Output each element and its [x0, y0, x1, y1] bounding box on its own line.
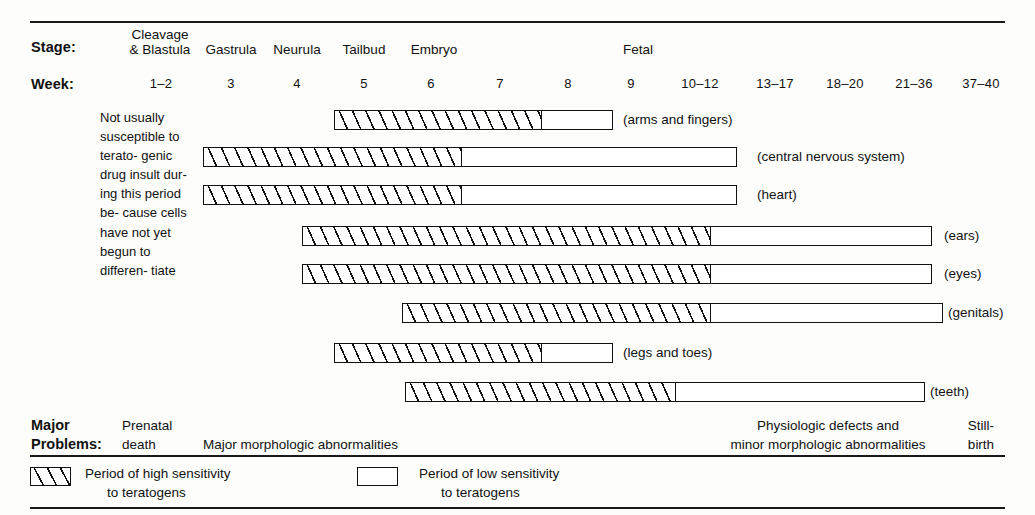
stage-row-label: Stage: [31, 39, 76, 55]
problem-line2: death [122, 435, 172, 454]
stage-label-fetal: Fetal [613, 42, 663, 57]
week-row-label: Week: [31, 76, 74, 92]
stage-label-line2: Tailbud [331, 42, 397, 57]
top-rule [30, 21, 1005, 23]
high-sensitivity-segment-eyes [303, 265, 711, 283]
problem-major-morphologic-abnormalities: Major morphologic abnormalities [203, 416, 398, 454]
bar-arms-and-fingers [334, 110, 613, 130]
high-sensitivity-segment-heart [204, 186, 462, 204]
problem-stillbirth: Still-birth [968, 416, 994, 454]
week-tick-label: 9 [627, 76, 635, 91]
week-tick-label: 10–12 [681, 76, 719, 91]
week-tick-label: 5 [360, 76, 368, 91]
stage-label-line1: Cleavage [112, 27, 208, 42]
legend-swatch-high-sensitivity [30, 467, 71, 486]
stage-label-tailbud: Tailbud [331, 42, 397, 57]
problem-line2: minor morphologic abnormalities [730, 435, 925, 454]
legend-line1: Period of low sensitivity [419, 464, 559, 483]
bar-heart [203, 185, 737, 205]
stage-label-line2: Neurula [262, 42, 332, 57]
stage-label-line2: Fetal [613, 42, 663, 57]
week-tick-label: 18–20 [826, 76, 864, 91]
bar-central-nervous-system [203, 147, 737, 167]
bar-label-genitals: (genitals) [948, 305, 1004, 320]
bar-ears [302, 226, 932, 246]
problems-row-label-line2: Problems: [31, 436, 102, 452]
week-tick-label: 7 [496, 76, 504, 91]
bar-label-central-nervous-system: (central nervous system) [757, 149, 905, 164]
bar-label-teeth: (teeth) [930, 384, 969, 399]
legend-line1: Period of high sensitivity [85, 464, 231, 483]
week-tick-label: 37–40 [962, 76, 1000, 91]
week-tick-label: 4 [293, 76, 301, 91]
bar-label-heart: (heart) [757, 187, 797, 202]
problem-line2: Major morphologic abnormalities [203, 435, 398, 454]
bar-label-legs-and-toes: (legs and toes) [623, 345, 712, 360]
not-susceptible-note: Not usually susceptible to terato- genic… [100, 108, 192, 280]
problem-prenatal-death: Prenataldeath [122, 416, 172, 454]
legend-swatch-low-sensitivity [357, 467, 398, 486]
legend-line2: to teratogens [85, 483, 231, 502]
bar-label-ears: (ears) [944, 228, 979, 243]
stage-label-neurula: Neurula [262, 42, 332, 57]
week-tick-label: 13–17 [756, 76, 794, 91]
stage-label-line2: Gastrula [194, 42, 268, 57]
legend-line2: to teratogens [419, 483, 559, 502]
week-tick-label: 6 [427, 76, 435, 91]
legend-text-low-sensitivity: Period of low sensitivityto teratogens [419, 464, 559, 502]
bar-teeth [405, 382, 925, 402]
bottom-rule [30, 507, 1005, 509]
week-tick-label: 21–36 [895, 76, 933, 91]
stage-label-line2: Embryo [399, 42, 469, 57]
bar-label-arms-and-fingers: (arms and fingers) [623, 112, 733, 127]
problem-line1: Physiologic defects and [730, 416, 925, 435]
problem-line2: birth [968, 435, 994, 454]
problem-line1: Still- [968, 416, 994, 435]
bar-eyes [302, 264, 932, 284]
high-sensitivity-segment-genitals [403, 304, 711, 322]
stage-label-gastrula: Gastrula [194, 42, 268, 57]
high-sensitivity-segment-teeth [406, 383, 676, 401]
week-tick-label: 8 [564, 76, 572, 91]
high-sensitivity-segment-central-nervous-system [204, 148, 462, 166]
problems-row-label-line1: Major [31, 417, 70, 433]
problem-physiologic-and-minor-abnormalities: Physiologic defects andminor morphologic… [730, 416, 925, 454]
stage-label-embryo: Embryo [399, 42, 469, 57]
week-tick-label: 3 [227, 76, 235, 91]
bar-label-eyes: (eyes) [944, 266, 982, 281]
problem-line1-spacer [203, 416, 398, 435]
teratogen-critical-periods-chart: Stage: Week: Cleavage& BlastulaGastrulaN… [0, 0, 1035, 515]
high-sensitivity-segment-arms-and-fingers [335, 111, 542, 129]
legend-text-high-sensitivity: Period of high sensitivityto teratogens [85, 464, 231, 502]
bar-legs-and-toes [334, 343, 613, 363]
week-tick-label: 1–2 [150, 76, 173, 91]
high-sensitivity-segment-ears [303, 227, 711, 245]
high-sensitivity-segment-legs-and-toes [335, 344, 542, 362]
problem-line1: Prenatal [122, 416, 172, 435]
bar-genitals [402, 303, 943, 323]
middle-rule [30, 455, 1005, 457]
